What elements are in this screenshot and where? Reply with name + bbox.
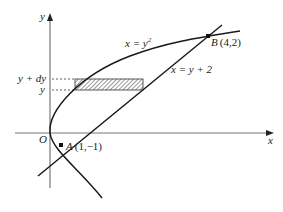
area-diagram: y x O x = y2 x = y + 2 A(1,−1) B(4,2) y …: [0, 0, 283, 212]
strip-lower-label: y: [39, 83, 45, 95]
x-axis: [15, 130, 274, 136]
line-equation: x = y + 2: [170, 63, 213, 75]
parabola-equation: x = y2: [124, 36, 152, 49]
x-axis-label: x: [267, 134, 273, 146]
origin-label: O: [39, 133, 47, 145]
y-axis-label: y: [39, 10, 45, 22]
point-b-label: B(4,2): [211, 36, 241, 49]
hatched-strip: [52, 79, 143, 90]
point-a-marker: [59, 143, 63, 147]
y-axis: [47, 13, 53, 188]
point-a-label: A(1,−1): [65, 140, 102, 153]
point-b-marker: [206, 34, 210, 38]
parabola-curve: [50, 31, 240, 198]
y-axis-arrow-icon: [47, 13, 53, 21]
